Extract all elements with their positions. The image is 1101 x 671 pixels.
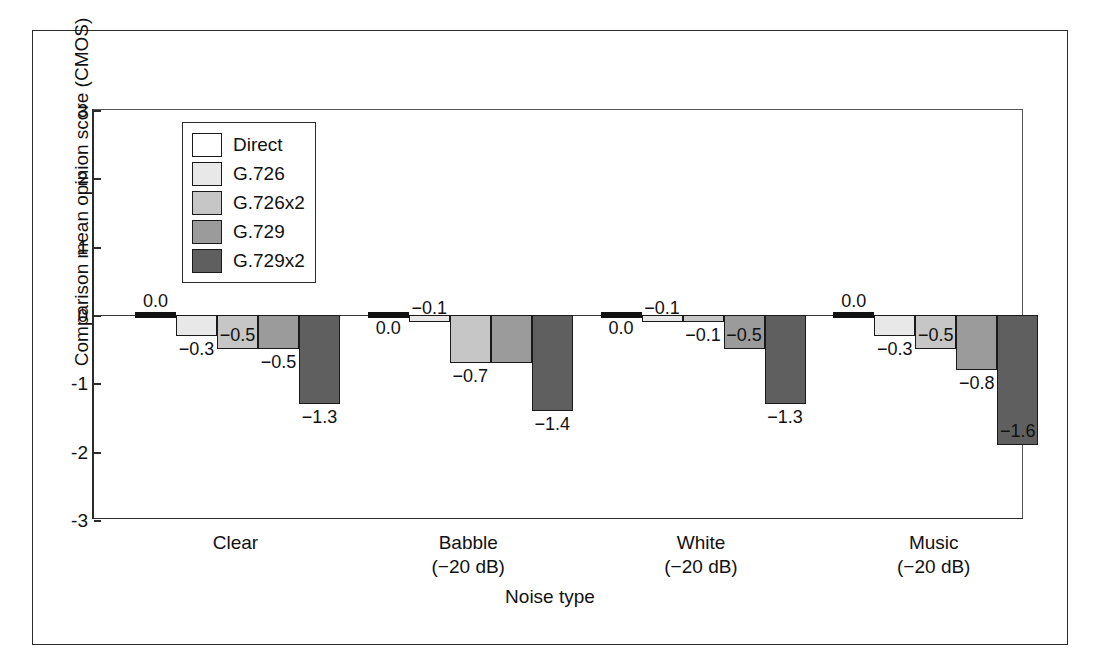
legend-item-label: G.729x2 [233, 251, 305, 270]
bar-value-label: −0.5 [714, 326, 774, 344]
x-group-label-line1: Babble [388, 531, 548, 555]
legend-item-label: G.726 [233, 164, 285, 183]
legend-swatch-icon [192, 249, 222, 273]
bar-value-label: 0.0 [358, 319, 418, 337]
y-tick-mark [94, 520, 101, 522]
bar-g729x2-babble [532, 315, 573, 411]
y-tick-label: 3 [54, 101, 88, 120]
bar-direct-clear [135, 312, 176, 318]
bar-value-label: −0.5 [906, 326, 966, 344]
y-tick-mark [94, 452, 101, 454]
bar-value-label: −0.5 [208, 326, 268, 344]
figure-frame: Comparison mean opinion score (CMOS) Noi… [32, 30, 1068, 645]
y-tick-mark [94, 247, 101, 249]
bar-g729-babble [491, 315, 532, 363]
bar-value-label: −0.8 [947, 374, 1007, 392]
legend-item-g729: G.729 [192, 217, 305, 246]
y-tick-mark [94, 178, 101, 180]
bar-value-label: 0.0 [591, 319, 651, 337]
bar-value-label: −1.3 [755, 408, 815, 426]
bar-direct-music [833, 312, 874, 318]
bar-g726x2-babble [450, 315, 491, 363]
figure-page: Comparison mean opinion score (CMOS) Noi… [0, 0, 1101, 671]
legend-swatch-icon [192, 133, 222, 157]
x-group-label-line2: (−20 dB) [388, 555, 548, 579]
y-tick-mark [94, 383, 101, 385]
bar-value-label: −1.4 [522, 415, 582, 433]
legend-item-g729x2: G.729x2 [192, 246, 305, 275]
y-axis-title: Comparison mean opinion score (CMOS) [71, 0, 93, 392]
bar-value-label: −1.6 [988, 422, 1048, 440]
y-tick-label: 0 [54, 306, 88, 325]
bar-value-label: −0.1 [632, 299, 692, 317]
bar-value-label: −0.1 [399, 299, 459, 317]
legend-item-label: G.726x2 [233, 193, 305, 212]
x-group-label-line2: (−20 dB) [621, 555, 781, 579]
legend-item-g726: G.726 [192, 159, 305, 188]
x-axis-title: Noise type [33, 586, 1067, 608]
y-tick-label: -1 [54, 374, 88, 393]
y-tick-label: -2 [54, 443, 88, 462]
legend-item-label: Direct [233, 135, 283, 154]
bar-value-label: 0.0 [126, 292, 186, 310]
legend-item-g726x2: G.726x2 [192, 188, 305, 217]
x-group-label-line2: (−20 dB) [854, 555, 1014, 579]
x-group-label: Clear [156, 531, 316, 555]
y-tick-label: 1 [54, 238, 88, 257]
bar-value-label: −1.3 [290, 408, 350, 426]
x-group-label: White(−20 dB) [621, 531, 781, 579]
y-tick-label: 2 [54, 169, 88, 188]
y-tick-label: -3 [54, 511, 88, 530]
bar-value-label: 0.0 [824, 292, 884, 310]
y-tick-mark [94, 110, 101, 112]
plot-area: 3210-1-2-3 0.0−0.3−0.5−0.5−1.30.0−0.1−0.… [92, 109, 1023, 519]
legend-item-label: G.729 [233, 222, 285, 241]
bar-value-label: −0.5 [249, 353, 309, 371]
x-group-label-line1: White [621, 531, 781, 555]
legend-swatch-icon [192, 162, 222, 186]
legend-swatch-icon [192, 220, 222, 244]
legend-item-direct: Direct [192, 130, 305, 159]
x-group-label: Babble(−20 dB) [388, 531, 548, 579]
x-group-label-line1: Clear [156, 531, 316, 555]
bar-value-label: −0.7 [440, 367, 500, 385]
legend-swatch-icon [192, 191, 222, 215]
x-group-label-line1: Music [854, 531, 1014, 555]
chart-legend: DirectG.726G.726x2G.729G.729x2 [182, 122, 316, 283]
x-group-label: Music(−20 dB) [854, 531, 1014, 579]
